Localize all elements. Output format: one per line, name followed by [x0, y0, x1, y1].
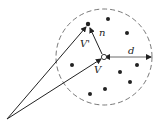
label-d: d — [128, 45, 134, 56]
point — [125, 31, 129, 35]
label-n: n — [99, 27, 105, 38]
vector-v-arrow — [7, 59, 101, 119]
point — [103, 87, 107, 91]
center-point-hollow — [101, 54, 106, 59]
point — [118, 70, 122, 74]
vector-v-prime-arrow — [7, 27, 86, 119]
point — [106, 17, 110, 21]
label-v: V — [94, 64, 103, 75]
neighborhood-diagram: V' n V d — [0, 0, 168, 126]
point — [88, 92, 92, 96]
target-point — [86, 22, 90, 26]
point — [128, 80, 132, 84]
label-v-prime: V' — [80, 38, 90, 49]
point — [70, 63, 74, 67]
point — [135, 63, 139, 67]
